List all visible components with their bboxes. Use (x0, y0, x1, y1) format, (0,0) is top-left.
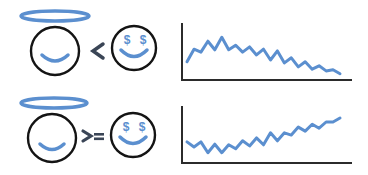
greater-equal-operator-icon (83, 131, 104, 141)
smile-mouth (120, 137, 146, 144)
canvas: $ $ $ $ (0, 0, 368, 175)
face-outline (28, 114, 76, 162)
halo-icon (21, 98, 87, 108)
line-series (187, 118, 340, 153)
dollar-eye-right: $ (140, 33, 147, 47)
face-outline (31, 27, 79, 75)
line-series (187, 37, 340, 73)
row-2: $ $ (21, 98, 352, 163)
dollar-eye-right: $ (139, 120, 146, 134)
less-than-operator-icon (93, 44, 103, 58)
dollar-eye-left: $ (124, 33, 131, 47)
chart-axes (182, 106, 352, 163)
dollar-eyes-smiley-icon: $ $ (112, 26, 156, 70)
chart-2-increasing (182, 106, 352, 163)
smile-mouth (121, 50, 147, 57)
face-outline (111, 113, 155, 157)
smile-mouth (40, 144, 64, 150)
halo-smiley-icon (21, 98, 87, 162)
halo-icon (21, 11, 89, 21)
face-outline (112, 26, 156, 70)
chart-1-decreasing (182, 23, 352, 80)
halo-smiley-icon (21, 11, 89, 75)
smile-mouth (42, 55, 68, 61)
dollar-eye-left: $ (123, 120, 130, 134)
row-1: $ $ (21, 11, 352, 80)
dollar-eyes-smiley-icon: $ $ (111, 113, 155, 157)
